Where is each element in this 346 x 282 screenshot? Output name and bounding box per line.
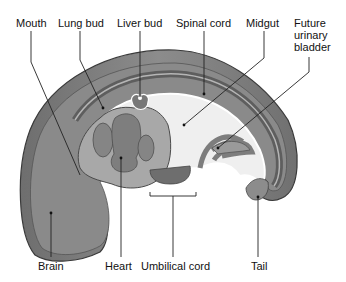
heart-chamber-center — [111, 114, 141, 172]
label-brain: Brain — [38, 260, 64, 272]
label-midgut: Midgut — [246, 17, 279, 29]
label-future-urinary-bladder: Future urinary bladder — [294, 17, 344, 53]
umbilical-bracket — [150, 192, 196, 196]
label-tail: Tail — [251, 260, 268, 272]
label-spinal-cord: Spinal cord — [176, 17, 231, 29]
label-heart: Heart — [105, 260, 132, 272]
label-lung-bud: Lung bud — [58, 17, 104, 29]
heart-chamber-right — [138, 135, 154, 161]
label-umbilical-cord: Umbilical cord — [141, 260, 210, 272]
label-mouth: Mouth — [16, 17, 47, 29]
heart-chamber-left — [93, 123, 113, 157]
label-liver-bud: Liver bud — [117, 17, 162, 29]
